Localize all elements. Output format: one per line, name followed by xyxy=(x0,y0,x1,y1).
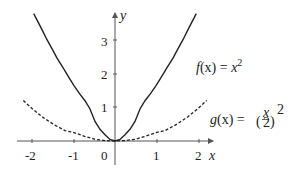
svg-text:(: ( xyxy=(256,114,261,130)
x-tick-label: 1 xyxy=(153,148,160,163)
x-tick-label: 2 xyxy=(195,148,202,163)
chart-canvas: -2 -1 0 1 2 1 2 3 x y f(x) = x2 g(x) = (… xyxy=(0,0,293,172)
y-tick-label: 1 xyxy=(101,100,108,115)
x-tick-label: -2 xyxy=(25,148,36,163)
f-label: f(x) = x2 xyxy=(196,57,242,76)
x-axis-label: x xyxy=(208,148,216,163)
svg-text:g(x) =: g(x) = xyxy=(210,112,245,128)
x-tick-label: 0 xyxy=(101,148,108,163)
g-label: g(x) = ( x 2 ) 2 xyxy=(210,102,284,130)
y-tick-label: 3 xyxy=(101,34,108,49)
x-tick-label: -1 xyxy=(68,148,79,163)
svg-text:): ) xyxy=(270,114,275,130)
svg-text:2: 2 xyxy=(263,115,270,130)
y-tick-label: 2 xyxy=(101,67,108,82)
y-axis-label: y xyxy=(118,8,127,23)
svg-text:2: 2 xyxy=(277,102,284,117)
